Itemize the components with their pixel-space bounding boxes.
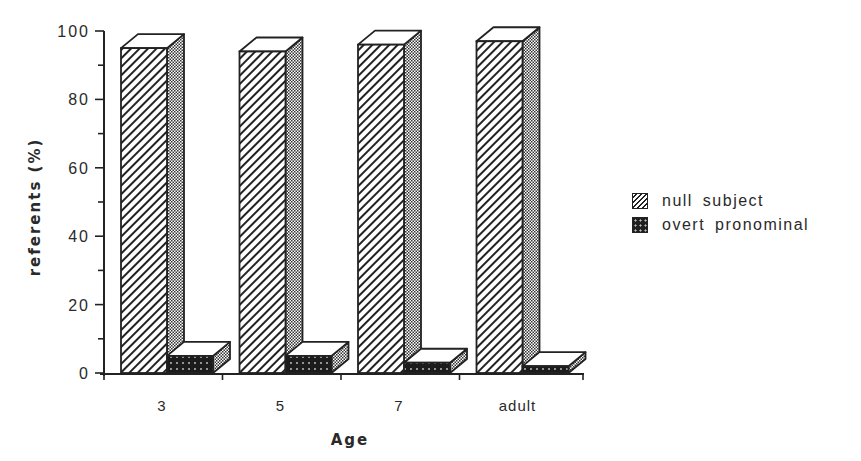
legend-item-null-subject: null subject	[632, 189, 809, 213]
y-axis: 020406080100	[57, 23, 104, 382]
x-tick-label: 7	[394, 397, 403, 414]
bars-group	[121, 27, 586, 373]
hatch-swatch-icon	[632, 193, 648, 209]
y-tick-label: 0	[79, 365, 90, 382]
legend-label: null subject	[662, 192, 764, 210]
x-axis-title: Age	[331, 431, 370, 449]
y-tick-label: 60	[68, 160, 90, 177]
legend-item-overt-pronominal: overt pronominal	[632, 213, 809, 237]
y-tick-label: 100	[57, 23, 90, 40]
legend-label: overt pronominal	[662, 216, 809, 234]
bar-null-subject-3	[121, 34, 184, 373]
x-tick-label: adult	[499, 397, 537, 414]
legend: null subject overt pronominal	[632, 189, 809, 237]
bar-null-subject-adult	[477, 27, 540, 373]
y-axis-title: referents (%)	[26, 138, 44, 277]
x-tick-label: 5	[276, 397, 285, 414]
x-tick-label: 3	[157, 397, 166, 414]
y-tick-label: 80	[68, 91, 90, 108]
x-axis: 357adult	[100, 373, 584, 414]
bar-null-subject-7	[358, 31, 421, 373]
dots-swatch-icon	[632, 217, 648, 233]
y-tick-label: 40	[68, 228, 90, 245]
y-tick-label: 20	[68, 297, 90, 314]
bar-null-subject-5	[240, 38, 303, 373]
